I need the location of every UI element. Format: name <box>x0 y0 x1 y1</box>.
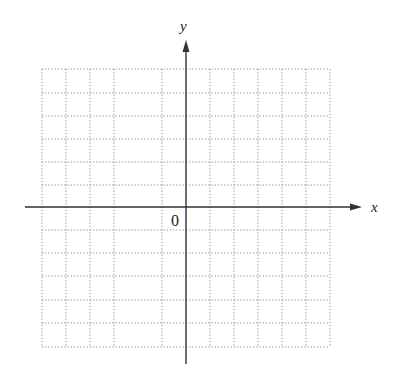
y-axis-arrow-icon <box>183 40 190 52</box>
coordinate-plane: x y 0 <box>0 0 397 391</box>
y-axis-label: y <box>178 18 187 34</box>
y-axis <box>183 40 190 364</box>
x-axis-arrow-icon <box>350 204 362 211</box>
origin-label: 0 <box>171 212 179 229</box>
x-axis-label: x <box>370 199 378 215</box>
x-axis <box>25 204 362 211</box>
